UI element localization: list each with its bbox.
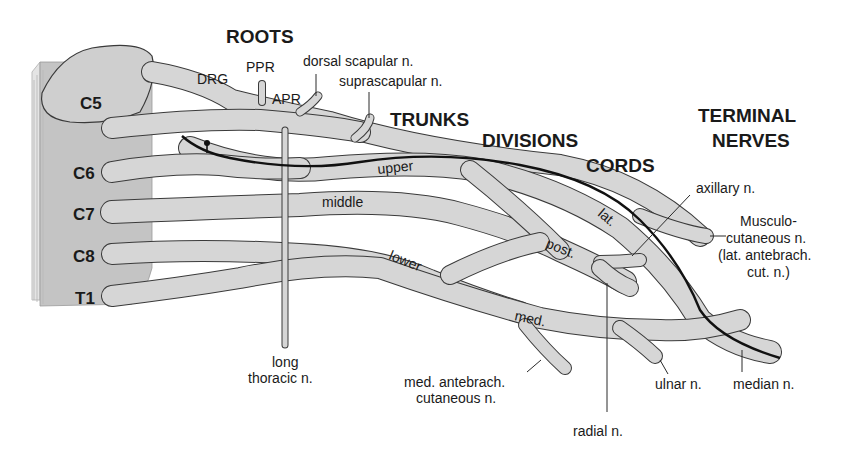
- segment-label-t1: T1: [75, 289, 95, 308]
- label-median-nerve: median n.: [733, 376, 794, 392]
- heading-cords: CORDS: [586, 155, 655, 176]
- heading-terminal-nerves-line2: NERVES: [712, 130, 790, 151]
- label-musculocutaneous-line1: Musculo-: [740, 213, 797, 229]
- label-long-thoracic-line2: thoracic n.: [248, 370, 313, 386]
- label-middle-trunk: middle: [322, 194, 363, 210]
- segment-label-c7: C7: [73, 205, 95, 224]
- label-med-antebrach-line1: med. antebrach.: [404, 374, 505, 390]
- label-ppr: PPR: [246, 59, 275, 75]
- label-musculocutaneous-line3: (lat. antebrach.: [718, 247, 811, 263]
- brachial-plexus-diagram: ROOTS TRUNKS DIVISIONS CORDS TERMINAL NE…: [0, 0, 850, 451]
- segment-label-c5: C5: [80, 94, 102, 113]
- label-radial-nerve: radial n.: [573, 423, 623, 439]
- label-suprascapular-nerve: suprascapular n.: [339, 73, 443, 89]
- label-apr: APR: [272, 91, 301, 107]
- label-axillary-nerve: axillary n.: [696, 180, 755, 196]
- label-dorsal-scapular-nerve: dorsal scapular n.: [303, 53, 414, 69]
- heading-terminal-nerves-line1: TERMINAL: [698, 105, 797, 126]
- heading-divisions: DIVISIONS: [482, 130, 578, 151]
- label-drg: DRG: [197, 71, 228, 87]
- label-ulnar-nerve: ulnar n.: [655, 376, 702, 392]
- label-med-antebrach-line2: cutaneous n.: [416, 390, 496, 406]
- label-musculocutaneous-line4: cut. n.): [747, 264, 790, 280]
- heading-trunks: TRUNKS: [390, 109, 469, 130]
- heading-roots: ROOTS: [226, 26, 294, 47]
- label-long-thoracic-line1: long: [272, 354, 298, 370]
- segment-label-c6: C6: [73, 164, 95, 183]
- label-musculocutaneous-line2: cutaneous n.: [726, 230, 806, 246]
- segment-label-c8: C8: [73, 247, 95, 266]
